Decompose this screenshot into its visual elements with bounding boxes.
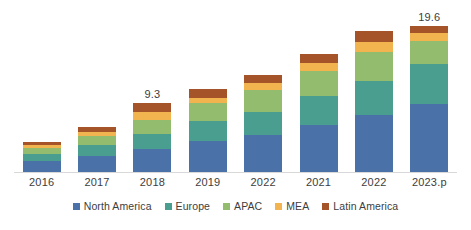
- stacked-bar[interactable]: [78, 127, 116, 172]
- bar-segment-apac[interactable]: [244, 90, 282, 112]
- x-axis-tick-label: 2022: [237, 176, 290, 188]
- x-axis-category-labels: 20162017201820192022202120222023.p: [14, 176, 457, 194]
- x-axis-tick-label: 2021: [292, 176, 345, 188]
- stacked-bar[interactable]: [133, 103, 171, 172]
- x-axis-tick-label: 2016: [15, 176, 68, 188]
- bar-segment-north-america[interactable]: [133, 149, 171, 172]
- legend-item-north-america[interactable]: North America: [73, 200, 152, 212]
- bar-segment-latin-america[interactable]: [300, 54, 338, 64]
- bar-segment-north-america[interactable]: [189, 141, 227, 172]
- x-axis-tick-label: 2018: [126, 176, 179, 188]
- bar-slot: 19.6: [403, 8, 456, 172]
- bar-value-label: 19.6: [418, 11, 440, 23]
- legend-swatch-icon: [165, 203, 172, 210]
- bar-segment-latin-america[interactable]: [355, 31, 393, 42]
- bar-segment-latin-america[interactable]: [244, 75, 282, 83]
- legend-item-apac[interactable]: APAC: [223, 200, 262, 212]
- stacked-bar[interactable]: [244, 75, 282, 172]
- bar-slot: 9.3: [126, 8, 179, 172]
- legend-label: APAC: [234, 200, 262, 212]
- x-axis-tick-label: 2022: [347, 176, 400, 188]
- bar-group: 9.319.6: [14, 8, 457, 172]
- bar-slot: [292, 8, 345, 172]
- chart-legend: North AmericaEuropeAPACMEALatin America: [0, 200, 471, 212]
- bar-slot: [15, 8, 68, 172]
- x-axis-line: [14, 172, 457, 173]
- legend-item-latin-america[interactable]: Latin America: [322, 200, 398, 212]
- legend-swatch-icon: [275, 203, 282, 210]
- bar-segment-north-america[interactable]: [300, 125, 338, 172]
- bar-slot: [181, 8, 234, 172]
- x-axis-tick-label: 2019: [181, 176, 234, 188]
- legend-item-mea[interactable]: MEA: [275, 200, 309, 212]
- bar-segment-mea[interactable]: [133, 112, 171, 119]
- legend-swatch-icon: [322, 203, 329, 210]
- bar-segment-apac[interactable]: [189, 103, 227, 122]
- plot-area: 9.319.6: [14, 8, 457, 172]
- bar-segment-apac[interactable]: [300, 71, 338, 96]
- x-axis-tick-label: 2023.p: [403, 176, 456, 188]
- bar-slot: [70, 8, 123, 172]
- legend-swatch-icon: [223, 203, 230, 210]
- bar-segment-europe[interactable]: [410, 64, 448, 104]
- bar-segment-europe[interactable]: [300, 96, 338, 125]
- legend-item-europe[interactable]: Europe: [165, 200, 210, 212]
- bar-segment-mea[interactable]: [300, 63, 338, 70]
- bar-segment-north-america[interactable]: [244, 135, 282, 172]
- bar-segment-north-america[interactable]: [78, 156, 116, 172]
- bar-segment-apac[interactable]: [410, 41, 448, 64]
- bar-segment-apac[interactable]: [355, 52, 393, 81]
- bar-segment-mea[interactable]: [410, 33, 448, 41]
- bar-segment-north-america[interactable]: [355, 115, 393, 172]
- bar-slot: [237, 8, 290, 172]
- bar-segment-europe[interactable]: [355, 81, 393, 115]
- bar-segment-north-america[interactable]: [410, 104, 448, 172]
- bar-segment-apac[interactable]: [133, 120, 171, 134]
- bar-value-label: 9.3: [144, 88, 160, 100]
- stacked-bar[interactable]: [189, 89, 227, 172]
- bar-segment-apac[interactable]: [78, 136, 116, 145]
- legend-swatch-icon: [73, 203, 80, 210]
- x-axis-tick-label: 2017: [70, 176, 123, 188]
- bar-segment-mea[interactable]: [244, 83, 282, 90]
- stacked-bar-chart: 9.319.6 20162017201820192022202120222023…: [0, 0, 471, 230]
- legend-label: MEA: [286, 200, 309, 212]
- bar-segment-europe[interactable]: [133, 134, 171, 149]
- legend-label: North America: [84, 200, 152, 212]
- stacked-bar[interactable]: [355, 31, 393, 172]
- bar-segment-north-america[interactable]: [23, 161, 61, 172]
- bar-segment-europe[interactable]: [189, 121, 227, 140]
- bar-segment-latin-america[interactable]: [410, 26, 448, 33]
- bar-segment-europe[interactable]: [244, 112, 282, 135]
- bar-segment-latin-america[interactable]: [189, 89, 227, 97]
- bar-segment-europe[interactable]: [23, 154, 61, 161]
- bar-segment-europe[interactable]: [78, 145, 116, 155]
- bar-segment-mea[interactable]: [355, 42, 393, 52]
- bar-segment-latin-america[interactable]: [133, 103, 171, 113]
- legend-label: Europe: [176, 200, 210, 212]
- stacked-bar[interactable]: [300, 54, 338, 172]
- bar-slot: [347, 8, 400, 172]
- legend-label: Latin America: [333, 200, 398, 212]
- stacked-bar[interactable]: [410, 26, 448, 172]
- stacked-bar[interactable]: [23, 142, 61, 172]
